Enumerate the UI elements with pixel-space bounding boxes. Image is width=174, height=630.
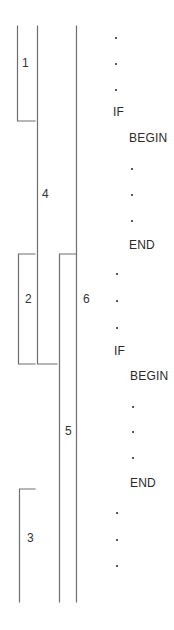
code-keyword-if: IF	[113, 106, 124, 118]
code-keyword-end: END	[129, 239, 155, 251]
ellipsis-dot	[131, 194, 133, 196]
segment-label-3: 3	[27, 532, 34, 544]
ellipsis-dot	[115, 89, 117, 91]
segment-label-5: 5	[65, 425, 72, 437]
program-segment-diagram: 142653 IFBEGINENDIFBEGINEND	[0, 0, 174, 630]
ellipsis-dot	[116, 512, 118, 514]
ellipsis-dot	[131, 220, 133, 222]
ellipsis-dot	[115, 63, 117, 65]
code-keyword-begin: BEGIN	[129, 132, 167, 144]
ellipsis-dot	[116, 300, 118, 302]
ellipsis-dot	[116, 539, 118, 541]
ellipsis-dot	[131, 168, 133, 170]
ellipsis-dot	[132, 457, 134, 459]
ellipsis-dot	[132, 431, 134, 433]
segment-label-4: 4	[42, 188, 49, 200]
ellipsis-dot	[116, 327, 118, 329]
segment-label-1: 1	[22, 57, 29, 69]
code-keyword-if: IF	[114, 345, 125, 357]
segment-2-bracket	[19, 254, 36, 364]
segment-1-bracket	[18, 26, 36, 121]
segment-label-2: 2	[25, 293, 32, 305]
ellipsis-dot	[116, 565, 118, 567]
code-keyword-end: END	[130, 477, 156, 489]
ellipsis-dot	[115, 37, 117, 39]
segment-label-6: 6	[83, 293, 90, 305]
segment-3-bracket	[20, 489, 36, 602]
ellipsis-dot	[116, 273, 118, 275]
code-keyword-begin: BEGIN	[130, 370, 168, 382]
ellipsis-dot	[132, 406, 134, 408]
